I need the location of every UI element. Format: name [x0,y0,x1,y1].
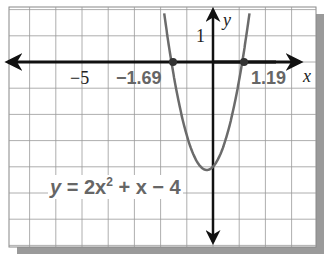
root-label-right: 1.19 [251,68,286,89]
tick-label-neg5: −5 [70,68,89,89]
eq-exp: 2 [106,175,113,189]
root-point-right [240,58,248,66]
eq-end: + x − 4 [113,176,181,198]
x-axis-label: x [303,66,311,87]
eq-mid: = 2x [61,176,106,198]
y-axis-label: y [223,10,231,31]
tick-label-y1: 1 [196,26,205,47]
root-label-left: −1.69 [116,68,162,89]
root-point-left [169,58,177,66]
equation-label: y = 2x2 + x − 4 [48,175,183,199]
eq-y: y [50,176,61,198]
grid-frame [9,7,316,247]
parabola-graph [0,0,330,266]
